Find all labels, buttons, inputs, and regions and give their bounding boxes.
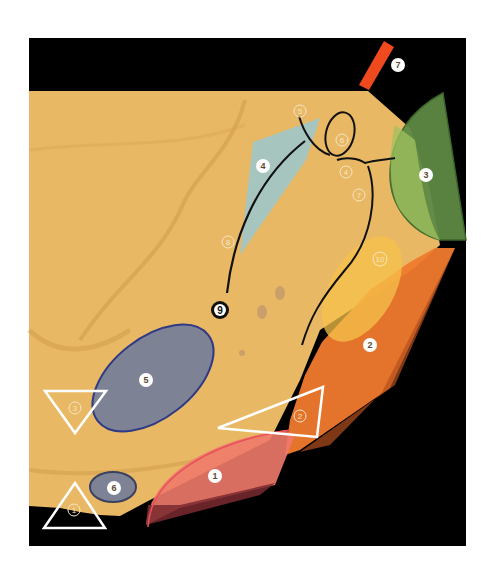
svg-text:7: 7 xyxy=(395,60,400,70)
label-3: 3 xyxy=(419,168,433,182)
svg-text:6: 6 xyxy=(111,483,116,493)
label-4: 4 xyxy=(256,159,270,173)
svg-text:7: 7 xyxy=(357,191,362,200)
svg-text:6: 6 xyxy=(340,136,345,145)
svg-text:4: 4 xyxy=(344,168,349,177)
svg-text:4: 4 xyxy=(260,161,265,171)
impression-hole xyxy=(257,305,267,319)
svg-text:10: 10 xyxy=(376,255,385,264)
svg-text:3: 3 xyxy=(423,170,428,180)
label-9: 9 xyxy=(211,301,229,319)
svg-text:2: 2 xyxy=(298,412,303,421)
label-5: 5 xyxy=(139,373,153,387)
svg-text:8: 8 xyxy=(226,238,231,247)
svg-text:5: 5 xyxy=(298,107,303,116)
label-7: 7 xyxy=(391,58,405,72)
label-2: 2 xyxy=(363,338,377,352)
impression-hole xyxy=(275,286,285,300)
annotated-impression-figure: 1 2 3 4 5 6 7 1 2 3 4 5 6 7 8 10 9 xyxy=(0,0,493,581)
svg-text:3: 3 xyxy=(73,404,78,413)
impression-hole xyxy=(239,350,245,356)
label-1: 1 xyxy=(208,469,222,483)
svg-text:9: 9 xyxy=(217,305,223,316)
svg-text:5: 5 xyxy=(143,375,148,385)
label-6: 6 xyxy=(107,481,121,495)
svg-text:1: 1 xyxy=(72,506,77,515)
svg-text:2: 2 xyxy=(367,340,372,350)
svg-text:1: 1 xyxy=(212,471,217,481)
